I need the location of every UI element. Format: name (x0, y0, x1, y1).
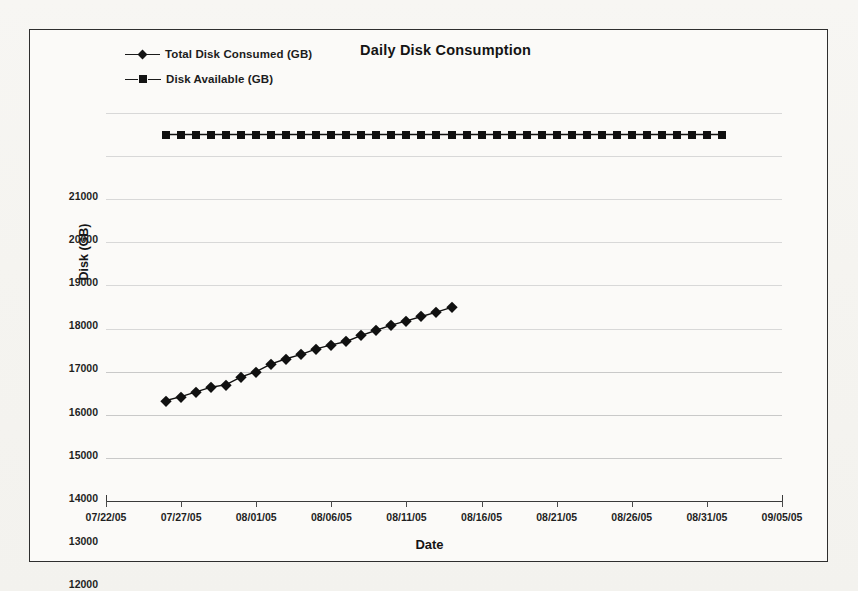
gridline-y-20000 (106, 156, 782, 157)
data-point-square[interactable] (207, 131, 215, 139)
x-tick-label: 08/31/05 (686, 511, 727, 523)
x-tick-label: 08/06/05 (311, 511, 352, 523)
data-point-square[interactable] (162, 131, 170, 139)
gridline-y-16000 (106, 329, 782, 330)
y-tick-label: 14000 (69, 492, 98, 504)
data-point-square[interactable] (222, 131, 230, 139)
data-point-square[interactable] (583, 131, 591, 139)
gridline-y-17000 (106, 285, 782, 286)
y-tick-label: 16000 (69, 406, 98, 418)
data-point-square[interactable] (568, 131, 576, 139)
legend-line-right (147, 54, 160, 55)
data-point-square[interactable] (598, 131, 606, 139)
data-point-square[interactable] (493, 131, 501, 139)
legend-label-total-disk-consumed: Total Disk Consumed (GB) (165, 48, 312, 60)
data-point-square[interactable] (688, 131, 696, 139)
x-tick-mark (782, 501, 783, 507)
x-tick-label: 07/27/05 (161, 511, 202, 523)
data-point-square[interactable] (417, 131, 425, 139)
x-tick-label: 08/11/05 (386, 511, 426, 523)
data-point-square[interactable] (478, 131, 486, 139)
y-tick-label: 12000 (69, 578, 98, 590)
legend-item-disk-available[interactable]: Disk Available (GB) (125, 71, 312, 87)
gridline-y-19000 (106, 199, 782, 200)
data-point-square[interactable] (372, 131, 380, 139)
data-point-square[interactable] (673, 131, 681, 139)
y-tick-label: 18000 (69, 319, 98, 331)
square-marker-icon (139, 75, 147, 83)
legend-item-total-disk-consumed[interactable]: Total Disk Consumed (GB) (125, 46, 312, 62)
y-axis-tick-labels: 1200013000140001500016000170001800019000… (30, 113, 98, 501)
gridline-y-15000 (106, 372, 782, 373)
chart-title: Daily Disk Consumption (360, 42, 531, 58)
y-tick-label: 20000 (69, 233, 98, 245)
x-tick-label: 08/21/05 (536, 511, 577, 523)
gridline-y-21000 (106, 113, 782, 114)
data-point-square[interactable] (402, 131, 410, 139)
x-tick-mark (256, 501, 257, 507)
data-point-square[interactable] (463, 131, 471, 139)
data-point-square[interactable] (658, 131, 666, 139)
chart-frame: Total Disk Consumed (GB) Disk Available … (29, 29, 828, 562)
x-tick-mark (181, 501, 182, 507)
data-point-square[interactable] (703, 131, 711, 139)
data-point-square[interactable] (357, 131, 365, 139)
chart-legend: Total Disk Consumed (GB) Disk Available … (125, 46, 312, 87)
legend-line-left (125, 54, 138, 55)
data-point-square[interactable] (177, 131, 185, 139)
data-point-square[interactable] (387, 131, 395, 139)
y-tick-label: 15000 (69, 449, 98, 461)
x-tick-mark (632, 501, 633, 507)
y-tick-label: 21000 (69, 190, 98, 202)
x-axis-line (106, 501, 782, 502)
x-tick-mark (557, 501, 558, 507)
data-point-square[interactable] (432, 131, 440, 139)
data-point-square[interactable] (267, 131, 275, 139)
data-point-square[interactable] (538, 131, 546, 139)
x-tick-mark (406, 501, 407, 507)
gridline-y-14000 (106, 415, 782, 416)
data-point-square[interactable] (718, 131, 726, 139)
y-tick-label: 17000 (69, 362, 98, 374)
y-tick-label: 19000 (69, 276, 98, 288)
x-tick-mark (331, 501, 332, 507)
x-tick-label: 08/26/05 (611, 511, 652, 523)
data-point-square[interactable] (553, 131, 561, 139)
gridline-y-13000 (106, 458, 782, 459)
data-point-square[interactable] (237, 131, 245, 139)
data-point-square[interactable] (327, 131, 335, 139)
x-tick-label: 09/05/05 (762, 511, 803, 523)
x-tick-mark (482, 501, 483, 507)
x-tick-mark (106, 501, 107, 507)
x-tick-label: 08/16/05 (461, 511, 502, 523)
legend-label-disk-available: Disk Available (GB) (166, 73, 273, 85)
legend-line-right (148, 79, 161, 80)
plot-area (106, 113, 782, 501)
data-point-square[interactable] (192, 131, 200, 139)
legend-line-left (125, 79, 138, 80)
data-point-square[interactable] (643, 131, 651, 139)
data-point-square[interactable] (448, 131, 456, 139)
data-point-square[interactable] (342, 131, 350, 139)
data-point-square[interactable] (282, 131, 290, 139)
data-point-square[interactable] (312, 131, 320, 139)
x-tick-mark (707, 501, 708, 507)
series-lines (106, 113, 782, 501)
x-tick-label: 08/01/05 (236, 511, 277, 523)
x-axis-title: Date (30, 537, 829, 552)
x-tick-label: 07/22/05 (86, 511, 127, 523)
data-point-square[interactable] (508, 131, 516, 139)
diamond-marker-icon (138, 49, 148, 59)
data-point-square[interactable] (613, 131, 621, 139)
data-point-square[interactable] (523, 131, 531, 139)
data-point-square[interactable] (297, 131, 305, 139)
data-point-square[interactable] (628, 131, 636, 139)
gridline-y-18000 (106, 242, 782, 243)
data-point-square[interactable] (252, 131, 260, 139)
